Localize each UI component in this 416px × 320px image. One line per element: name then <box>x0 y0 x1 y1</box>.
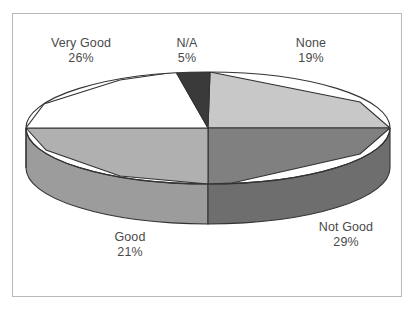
pie-label-very-good: Very Good 26% <box>26 36 136 66</box>
pie-label-good-name: Good <box>88 230 172 245</box>
pie-slice-none <box>208 72 390 128</box>
pie-label-not-good: Not Good 29% <box>296 220 396 250</box>
pie-label-not-good-percent: 29% <box>296 235 396 250</box>
pie-chart-figure: Very Good 26% N/A 5% None 19% Not Good 2… <box>0 0 416 320</box>
pie-label-very-good-percent: 26% <box>26 51 136 66</box>
pie-label-not-good-name: Not Good <box>296 220 396 235</box>
pie-label-very-good-name: Very Good <box>26 36 136 51</box>
pie-label-none-name: None <box>268 36 354 51</box>
pie-label-good: Good 21% <box>88 230 172 260</box>
pie-label-none-percent: 19% <box>268 51 354 66</box>
pie-label-na: N/A 5% <box>152 36 222 66</box>
pie-label-none: None 19% <box>268 36 354 66</box>
pie-label-na-name: N/A <box>152 36 222 51</box>
pie-top-face <box>26 72 390 184</box>
pie-label-good-percent: 21% <box>88 245 172 260</box>
pie-label-na-percent: 5% <box>152 51 222 66</box>
